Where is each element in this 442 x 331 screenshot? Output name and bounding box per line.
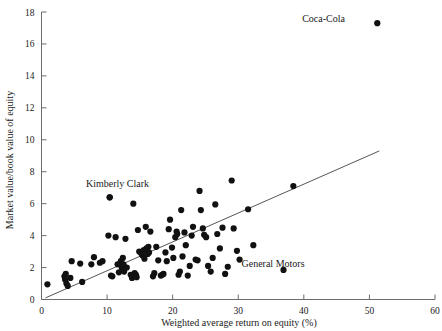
data-point (155, 257, 161, 263)
data-point (67, 275, 73, 281)
annotation-label: Coca-Cola (302, 13, 345, 24)
annotation-label: General Motors (241, 258, 304, 269)
data-point (196, 188, 202, 194)
data-point (183, 242, 189, 248)
data-point (65, 283, 71, 289)
data-point (124, 264, 130, 270)
data-point (203, 234, 209, 240)
data-point (160, 271, 166, 277)
plot-area: 0102030405060024681012141618 Coca-ColaKi… (0, 0, 442, 331)
data-point (145, 244, 151, 250)
data-point (234, 248, 240, 254)
data-point (44, 281, 50, 287)
y-tick-label: 14 (25, 71, 35, 81)
x-tick-label: 40 (299, 306, 309, 316)
data-point (214, 231, 220, 237)
data-point (231, 225, 237, 231)
data-point (205, 263, 211, 269)
data-point (225, 264, 231, 270)
data-point (146, 249, 152, 255)
data-point (177, 268, 183, 274)
data-point (105, 233, 111, 239)
y-tick-label: 18 (25, 8, 35, 18)
y-tick-label: 10 (25, 135, 35, 145)
data-point (200, 225, 206, 231)
data-point (77, 260, 83, 266)
data-point (198, 207, 204, 213)
annotations-group: Coca-ColaKimberly ClarkGeneral Motors (86, 13, 380, 273)
data-point (143, 224, 149, 230)
data-point (250, 242, 256, 248)
scatter-chart: 0102030405060024681012141618 Coca-ColaKi… (0, 0, 442, 331)
data-point (120, 255, 126, 261)
x-tick-label: 30 (234, 306, 244, 316)
data-point (208, 268, 214, 274)
data-point (122, 236, 128, 242)
y-tick-label: 2 (30, 263, 35, 273)
data-point (187, 263, 193, 269)
y-tick-label: 8 (30, 167, 35, 177)
annotated-data-point (374, 20, 380, 26)
data-point (167, 217, 173, 223)
data-point (189, 233, 195, 239)
data-point (113, 234, 119, 240)
tick-labels-group: 0102030405060024681012141618 (25, 8, 440, 316)
y-axis-title: Market value/book value of equity (4, 91, 15, 229)
x-tick-label: 50 (365, 306, 375, 316)
data-point (181, 229, 187, 235)
data-point (91, 254, 97, 260)
data-point (290, 183, 296, 189)
data-point (178, 207, 184, 213)
x-tick-label: 0 (39, 306, 44, 316)
x-tick-label: 10 (102, 306, 112, 316)
data-point (164, 258, 170, 264)
data-point (217, 245, 223, 251)
data-point (99, 258, 105, 264)
data-point (79, 279, 85, 285)
x-tick-label: 20 (168, 306, 178, 316)
x-axis-title: Weighted average return on equity (%) (161, 317, 317, 329)
y-tick-label: 6 (30, 199, 35, 209)
data-point (166, 226, 172, 232)
data-point (69, 258, 75, 264)
x-tick-label: 60 (430, 306, 440, 316)
data-point (245, 206, 251, 212)
data-point (133, 274, 139, 280)
data-point (153, 244, 159, 250)
y-tick-label: 16 (25, 39, 35, 49)
regression-line (45, 151, 379, 298)
data-point (147, 229, 153, 235)
data-point (229, 177, 235, 183)
data-point (151, 270, 157, 276)
data-point (219, 225, 225, 231)
data-point (88, 261, 94, 267)
data-point (210, 255, 216, 261)
data-point (162, 249, 168, 255)
data-point (190, 224, 196, 230)
y-tick-label: 0 (30, 295, 35, 305)
data-point (222, 271, 228, 277)
annotated-data-point (107, 194, 113, 200)
data-point (170, 255, 176, 261)
trendline (45, 151, 379, 298)
data-point (185, 272, 191, 278)
data-point (135, 227, 141, 233)
annotation-label: Kimberly Clark (86, 178, 149, 189)
data-points-group (44, 177, 296, 289)
data-point (194, 257, 200, 263)
data-point (174, 231, 180, 237)
data-point (130, 201, 136, 207)
data-point (109, 273, 115, 279)
tick-marks-group (42, 12, 436, 300)
y-tick-label: 4 (30, 231, 35, 241)
data-point (212, 201, 218, 207)
data-point (169, 244, 175, 250)
axes-group (42, 12, 436, 300)
data-point (179, 253, 185, 259)
y-tick-label: 12 (25, 103, 35, 113)
